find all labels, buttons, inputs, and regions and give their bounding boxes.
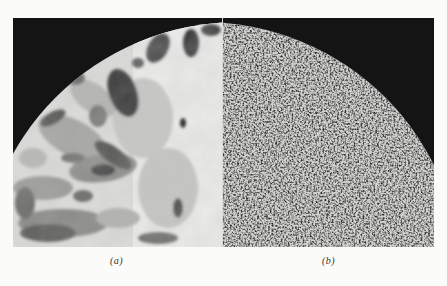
coarse-grain-image	[13, 18, 222, 247]
panel-b-caption: (b)	[322, 255, 335, 266]
panel-a-caption: (a)	[110, 255, 123, 266]
fine-grain-image	[223, 18, 434, 247]
micrograph-panel-b	[223, 18, 434, 247]
micrograph-panel-a	[13, 18, 222, 247]
figure: (a) (b)	[0, 0, 447, 286]
